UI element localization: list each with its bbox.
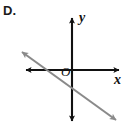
y-axis-label: y [79, 11, 85, 25]
plotted-line [22, 52, 116, 120]
answer-choice-figure: D. y x O [0, 0, 129, 131]
origin-label: O [61, 65, 70, 78]
x-axis-label: x [114, 73, 121, 87]
